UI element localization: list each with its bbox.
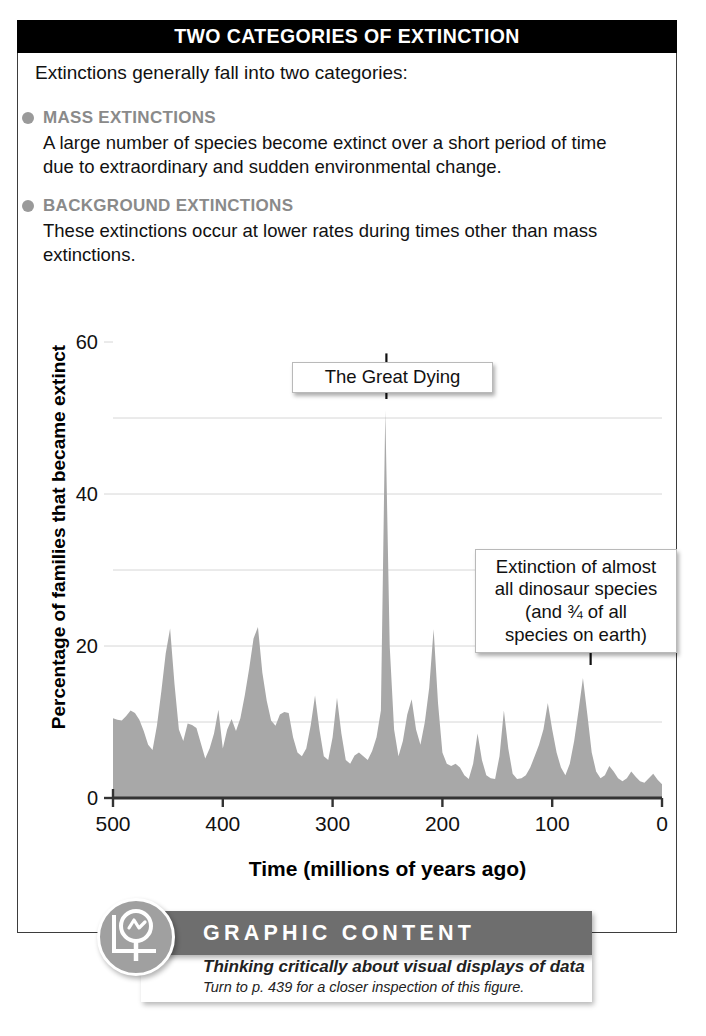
callout-great-dying: The Great Dying: [292, 362, 493, 393]
graphic-content-banner: GRAPHIC CONTENT: [141, 911, 592, 955]
x-tick-label-300: 300: [315, 812, 350, 835]
category-heading-row: BACKGROUND EXTINCTIONS: [22, 196, 642, 216]
bullet-dot-icon: [22, 200, 34, 212]
bullet-dot-icon: [22, 112, 34, 124]
y-axis-label: Percentage of families that became extin…: [48, 327, 70, 747]
y-tick-label-60: 60: [76, 331, 98, 353]
category-title: BACKGROUND EXTINCTIONS: [43, 196, 293, 216]
intro-text: Extinctions generally fall into two cate…: [35, 62, 635, 84]
category-body: These extinctions occur at lower rates d…: [43, 219, 618, 268]
y-tick-label-20: 20: [76, 635, 98, 657]
page-title: TWO CATEGORIES OF EXTINCTION: [174, 25, 520, 48]
callout-line-3: (and ¾ of all: [525, 601, 627, 624]
banner-note: Turn to p. 439 for a closer inspection o…: [203, 979, 592, 995]
callout-line-4: species on earth): [505, 624, 647, 647]
callout-line-1: Extinction of almost: [496, 556, 656, 579]
callout-line-2: all dinosaur species: [495, 578, 657, 601]
x-tick-label-500: 500: [95, 812, 130, 835]
callout-great-dying-text: The Great Dying: [325, 366, 461, 389]
category-mass-extinctions: MASS EXTINCTIONS A large number of speci…: [22, 108, 642, 180]
x-axis-label: Time (millions of years ago): [249, 857, 526, 880]
category-background-extinctions: BACKGROUND EXTINCTIONS These extinctions…: [22, 196, 642, 268]
y-tick-label-0: 0: [87, 787, 98, 809]
category-title: MASS EXTINCTIONS: [43, 108, 216, 128]
x-tick-label-400: 400: [205, 812, 240, 835]
category-heading-row: MASS EXTINCTIONS: [22, 108, 642, 128]
graphic-content-subtitle-box: Thinking critically about visual display…: [141, 955, 592, 1002]
x-tick-label-100: 100: [535, 812, 570, 835]
category-body: A large number of species become extinct…: [43, 131, 618, 180]
figure-title-bar: TWO CATEGORIES OF EXTINCTION: [17, 20, 677, 53]
magnifier-chart-logo-icon: [97, 898, 175, 976]
banner-title: GRAPHIC CONTENT: [203, 921, 475, 946]
y-tick-label-40: 40: [76, 483, 98, 505]
banner-subtitle: Thinking critically about visual display…: [203, 957, 592, 977]
x-tick-label-200: 200: [425, 812, 460, 835]
x-tick-label-0: 0: [656, 812, 668, 835]
graphic-content-footer: GRAPHIC CONTENT Thinking critically abou…: [97, 893, 597, 988]
callout-dinosaur-extinction: Extinction of almost all dinosaur specie…: [475, 549, 677, 653]
